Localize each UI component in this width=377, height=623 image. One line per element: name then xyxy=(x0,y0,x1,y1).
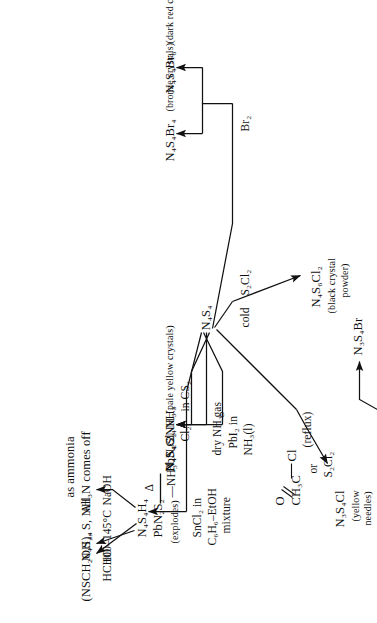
product-n4s4br6: N₄S₄Br₆ xyxy=(162,51,176,93)
reagent-pbi2-line1: PbI₂ in xyxy=(226,415,239,448)
product-n4s4h4: N₄S₄H₄ xyxy=(134,498,148,537)
note-yellow-needles-line2: needles) xyxy=(361,491,372,525)
product-n4s4cl4: N₄S₄Cl₄ xyxy=(162,429,176,471)
reagent-naoh: NaOH xyxy=(100,475,113,505)
note-pale-yellow-crystals: (pale yellow crystals) xyxy=(163,325,174,413)
product-n4s6cl2: N₄S₆Cl₂ xyxy=(308,265,322,307)
reagent-reflux: (reflux) xyxy=(300,411,313,447)
acyl-oxygen-label: O xyxy=(272,496,286,505)
reagent-br2: Br₂ xyxy=(238,115,251,131)
reagent-dry-nh3-line2: gas xyxy=(210,401,223,417)
reagent-in-cs2: in CS₂ xyxy=(178,381,191,412)
product-n3s4br: N₃S₄Br xyxy=(350,317,364,355)
reagent-dry-nh3-line1: dry NH₃ xyxy=(210,415,223,455)
reagent-sncl2-line3: mixture xyxy=(219,497,232,533)
product-all-n-ammonia-line2: as ammonia xyxy=(62,436,76,497)
note-black-crystal-line1: (black crystal xyxy=(325,257,336,313)
product-n3s4cl: N₃S₄Cl xyxy=(332,490,346,527)
acyl-methyl-carbon-label: CH₃C xyxy=(288,475,302,505)
condition-delta: Δ xyxy=(142,484,155,492)
note-dark-red-crystals: (dark red crystals) xyxy=(163,0,174,43)
product-n4s4br4: N₄S₄Br₄ xyxy=(162,119,176,161)
note-yellow-needles-line1: (yellow xyxy=(349,490,360,521)
reagent-s2cl2-alt: S₂Cl₂ xyxy=(321,451,334,477)
note-black-crystal-line2: powder) xyxy=(338,263,349,297)
reagent-s2cl2-cold: S₂Cl₂ xyxy=(238,269,251,295)
reagent-sncl2-line2: C₆H₆–EtOH xyxy=(205,488,218,545)
reaction-arrows xyxy=(0,0,377,623)
reagent-or: or xyxy=(306,463,319,473)
product-all-n-ammonia-line1: All N comes off xyxy=(78,431,92,513)
acyl-chlorine-label: Cl xyxy=(284,449,298,461)
diagram-scene: N₄S₄ SnCl₂ in C₆H₆–EtOH mixture N₄S₄H₄ H… xyxy=(0,0,377,623)
diagram-canvas: N₄S₄ SnCl₂ in C₆H₆–EtOH mixture N₄S₄H₄ H… xyxy=(0,0,377,623)
note-explodes: (explodes) xyxy=(168,500,179,543)
reagent-pbi2-line2: NH₃(l) xyxy=(241,423,254,455)
reagent-temperature: 100–145°C xyxy=(100,510,113,563)
center-node-n4s4: N₄S₄ xyxy=(198,305,212,330)
reagent-cl2: Cl₂ xyxy=(178,426,191,441)
reagent-sncl2-line1: SnCl₂ in xyxy=(190,497,203,537)
product-pbn2s2: PbN₂S₂ xyxy=(150,499,164,538)
reagent-cold: cold xyxy=(238,307,251,327)
